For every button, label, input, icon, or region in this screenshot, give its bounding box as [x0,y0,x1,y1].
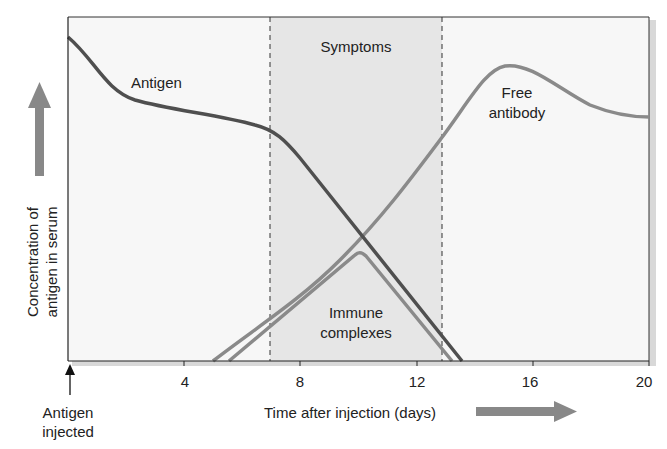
y-axis-title-line1: Concentration of [24,206,41,317]
x-arrow-shaft [476,407,556,416]
immune-complexes-label-line2: complexes [320,324,392,341]
x-tick-label-12: 12 [409,373,426,390]
immune-complexes-label-line1: Immune [329,304,383,321]
symptoms-label: Symptoms [321,38,392,55]
chart-canvas: 4 8 12 16 20 Antigen injected Time after… [0,0,667,449]
y-axis-title-line2: antigen in serum [43,207,60,318]
origin-label-line2: injected [42,423,94,440]
antigen-label: Antigen [131,74,182,91]
y-arrow-shaft [35,106,44,176]
x-tick-label-4: 4 [181,373,189,390]
x-tick-label-16: 16 [522,373,539,390]
free-antibody-label-line2: antibody [489,104,546,121]
x-axis-title: Time after injection (days) [264,404,436,421]
origin-label-line1: Antigen [43,404,94,421]
x-tick-label-20: 20 [636,373,653,390]
y-direction-arrow-icon [28,82,51,108]
free-antibody-label-line1: Free [502,84,533,101]
x-direction-arrow-icon [554,401,577,422]
x-tick-label-8: 8 [296,373,304,390]
